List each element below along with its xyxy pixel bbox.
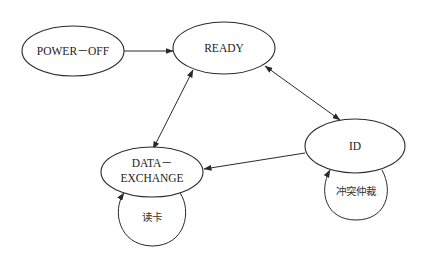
node-data-exchange-label-2: EXCHANGE	[120, 172, 183, 184]
node-data-exchange: DATA－ EXCHANGE	[101, 147, 203, 197]
node-data-exchange-label-1: DATA－	[132, 157, 173, 169]
node-ready: READY	[173, 22, 275, 74]
state-diagram: POWER－OFF READY ID DATA－ EXCHANGE 读卡 冲突仲…	[0, 0, 422, 262]
node-power-off: POWER－OFF	[22, 26, 124, 76]
self-loop-conflict-label: 冲突仲裁	[336, 185, 377, 197]
node-id: ID	[305, 119, 405, 173]
edge-ready-id	[265, 66, 340, 120]
edge-ready-dataexchange	[153, 70, 193, 149]
node-id-label: ID	[349, 140, 361, 152]
edge-id-to-dataexchange	[204, 153, 305, 169]
node-ready-label: READY	[204, 42, 244, 54]
node-power-off-label: POWER－OFF	[37, 45, 109, 57]
self-loop-read-card-label: 读卡	[142, 211, 162, 223]
